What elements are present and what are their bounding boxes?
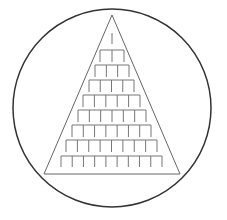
pyramid-row-2 [100,50,124,62]
pyramid-row-3 [95,65,129,77]
pyramid-row-8 [66,140,157,152]
pyramid-row-6 [78,110,146,122]
diagram-canvas [0,0,227,220]
pyramid-in-circle-diagram [0,0,227,220]
pyramid-row-5 [83,95,140,107]
pyramid-row-4 [89,80,134,92]
pyramid-row-7 [72,125,151,137]
pyramid-row-9 [61,156,162,167]
